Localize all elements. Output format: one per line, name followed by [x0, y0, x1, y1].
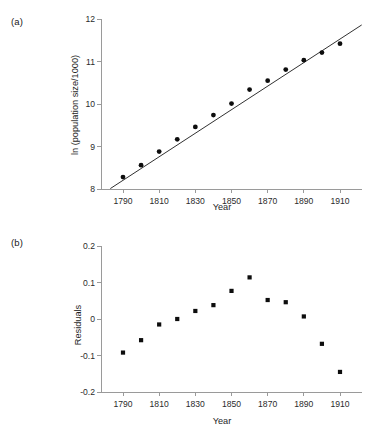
- panel-b-data-point: [302, 314, 306, 318]
- panel-a-x-tick-label: 1830: [186, 196, 205, 206]
- panel-a-population-plot: (a) 891011121790181018301850187018901910…: [0, 0, 377, 220]
- panel-a-canvas: [0, 0, 377, 220]
- panel-b-y-tick-label: 0.1: [69, 278, 95, 288]
- panel-b-data-point: [229, 289, 233, 293]
- panel-b-data-point: [139, 338, 143, 342]
- panel-a-x-tick-label: 1890: [294, 196, 313, 206]
- panel-b-y-tick-label: -0.2: [69, 387, 95, 397]
- panel-b-x-tick-label: 1850: [222, 399, 241, 409]
- panel-b-data-point: [157, 322, 161, 326]
- panel-a-x-axis-title: Year: [213, 202, 232, 212]
- panel-a-data-point: [157, 149, 162, 154]
- panel-b-data-point: [121, 350, 125, 354]
- panel-b-data-point: [193, 309, 197, 313]
- panel-a-data-point: [338, 41, 343, 46]
- panel-b-x-tick-label: 1910: [330, 399, 349, 409]
- panel-b-x-axis-title: Year: [213, 416, 232, 426]
- panel-b-y-tick-label: 0.2: [69, 241, 95, 251]
- panel-a-data-point: [229, 101, 234, 106]
- panel-b-data-point: [284, 300, 288, 304]
- panel-a-x-tick-label: 1870: [258, 196, 277, 206]
- panel-b-data-point: [266, 298, 270, 302]
- panel-b-x-tick-label: 1830: [186, 399, 205, 409]
- panel-b-data-point: [211, 303, 215, 307]
- panel-a-data-point: [139, 163, 144, 168]
- panel-a-x-tick-label: 1910: [330, 196, 349, 206]
- panel-b-data-point: [338, 370, 342, 374]
- panel-a-data-point: [211, 113, 216, 118]
- panel-a-data-point: [283, 67, 288, 72]
- panel-a-y-tick-label: 8: [75, 184, 95, 194]
- panel-a-data-point: [301, 58, 306, 63]
- panel-b-x-tick-label: 1790: [113, 399, 132, 409]
- panel-a-y-tick-label: 12: [75, 14, 95, 24]
- panel-b-x-tick-label: 1810: [150, 399, 169, 409]
- panel-a-x-tick-label: 1810: [150, 196, 169, 206]
- panel-a-y-axis-title: ln (population size/1000): [70, 55, 80, 155]
- panel-b-x-tick-label: 1870: [258, 399, 277, 409]
- panel-b-data-point: [175, 317, 179, 321]
- panel-a-data-point: [320, 50, 325, 55]
- panel-a-x-tick-label: 1790: [113, 196, 132, 206]
- panel-a-data-point: [175, 137, 180, 142]
- panel-b-residuals-plot: (b) -0.2-0.100.10.2179018101830185018701…: [0, 220, 377, 434]
- panel-a-data-point: [121, 175, 126, 180]
- figure-population-growth-residuals: (a) 891011121790181018301850187018901910…: [0, 0, 377, 434]
- panel-b-data-point: [320, 342, 324, 346]
- panel-b-data-point: [247, 275, 251, 279]
- panel-b-y-axis-title: Residuals: [73, 305, 83, 345]
- panel-a-data-point: [265, 78, 270, 83]
- panel-b-y-tick-label: -0.1: [69, 351, 95, 361]
- panel-b-x-tick-label: 1890: [294, 399, 313, 409]
- panel-a-data-point: [247, 87, 252, 92]
- panel-a-data-point: [193, 125, 198, 130]
